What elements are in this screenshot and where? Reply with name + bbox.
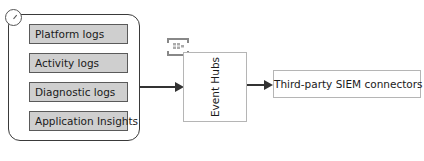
gauge-icon: [5, 9, 22, 26]
source-diagnostic-logs: Diagnostic logs: [29, 82, 128, 102]
connector-line-hub-to-siem: [247, 84, 265, 86]
siem-connectors-box: Third-party SIEM connectors: [273, 70, 421, 98]
connector-line-sources-to-hub: [140, 86, 176, 88]
arrowhead-to-siem: [264, 80, 273, 90]
source-application-insights: Application Insights: [29, 111, 128, 131]
event-hubs-box: Event Hubs: [183, 52, 247, 122]
source-activity-logs: Activity logs: [29, 53, 128, 73]
event-hubs-label: Event Hubs: [209, 57, 221, 117]
source-platform-logs: Platform logs: [29, 24, 128, 44]
